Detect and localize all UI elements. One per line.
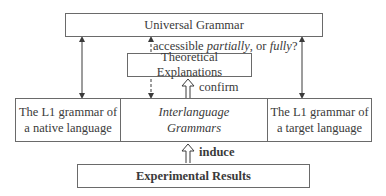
experimental-results-box: Experimental Results [77, 164, 310, 188]
fully-text: fully [270, 39, 292, 53]
experimental-results-label: Experimental Results [136, 169, 251, 184]
interlanguage-grammars-cell: InterlanguageGrammars [121, 99, 268, 141]
grammars-row: The L1 grammar ofa native language Inter… [15, 98, 372, 142]
target-line-2: a target language [270, 120, 368, 136]
target-l1-grammar-cell: The L1 grammar ofa target language [268, 99, 371, 141]
interlanguage-line-2: Grammars [159, 120, 230, 136]
target-line-1: The L1 grammar of [270, 104, 368, 120]
interlanguage-line-1: Interlanguage [159, 104, 230, 120]
induce-hollow-arrow [182, 144, 194, 163]
native-l1-grammar-cell: The L1 grammar ofa native language [16, 99, 121, 141]
theoretical-explanations-label: Theoretical Explanations [128, 50, 251, 80]
universal-grammar-label: Universal Grammar [144, 18, 244, 33]
native-line-1: The L1 grammar of [19, 104, 117, 120]
induce-label: induce [199, 145, 234, 160]
or-text: , or [250, 39, 270, 53]
native-line-2: a native language [19, 120, 117, 136]
universal-grammar-box: Universal Grammar [65, 13, 323, 37]
theoretical-explanations-box: Theoretical Explanations [127, 53, 252, 77]
question-mark: ? [292, 39, 298, 53]
confirm-label: confirm [199, 80, 239, 95]
confirm-hollow-arrow [182, 79, 194, 98]
